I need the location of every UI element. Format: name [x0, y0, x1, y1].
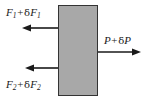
label-force-1-symbol: F — [6, 6, 13, 18]
shaded-block — [59, 6, 98, 96]
label-pressure-delta-symbol: P — [124, 34, 131, 46]
label-force-2-operator: + — [17, 78, 24, 90]
arrow-force-2-head — [25, 64, 34, 71]
label-pressure: P+δP — [104, 35, 131, 46]
arrow-force-1-head — [22, 24, 31, 31]
arrow-force-1 — [22, 24, 58, 31]
label-force-2-subscript: 2 — [13, 83, 17, 92]
label-force-2-delta-subscript: 2 — [37, 83, 41, 92]
arrow-pressure-head — [132, 48, 141, 55]
label-force-2-delta-symbol: F — [30, 78, 37, 90]
label-force-2-symbol: F — [6, 78, 13, 90]
arrow-pressure — [98, 48, 141, 55]
label-force-1-operator: + — [17, 6, 24, 18]
label-force-1-delta-subscript: 1 — [37, 11, 41, 20]
label-force-1: F1+δF1 — [6, 7, 41, 18]
label-force-2: F2+δF2 — [6, 79, 41, 90]
arrow-force-2 — [25, 64, 58, 71]
label-pressure-symbol: P — [104, 34, 111, 46]
force-balance-diagram: F1+δF1 F2+δF2 P+δP — [0, 0, 154, 102]
label-force-1-delta-symbol: F — [30, 6, 37, 18]
label-force-1-subscript: 1 — [13, 11, 17, 20]
